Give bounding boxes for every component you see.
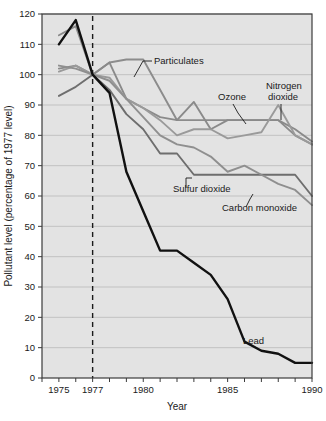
- x-tick-label-1990: 1990: [301, 384, 322, 395]
- y-tick-label-80: 80: [24, 130, 35, 141]
- y-axis: 0102030405060708090100110120: [19, 8, 42, 383]
- series-label-ozone: Ozone: [218, 91, 246, 102]
- series-label-sulfur-dioxide: Sulfur dioxide: [173, 183, 231, 194]
- x-tick-label-1985: 1985: [217, 384, 238, 395]
- series-label-nitrogen-dioxide-line2: dioxide: [268, 91, 298, 102]
- y-tick-label-20: 20: [24, 312, 35, 323]
- series-label-nitrogen-dioxide-line1: Nitrogen: [266, 80, 302, 91]
- y-tick-label-40: 40: [24, 251, 35, 262]
- pollutant-level-line-chart: 0102030405060708090100110120 19751977198…: [0, 0, 326, 421]
- series-label-lead: Lead: [243, 335, 264, 346]
- x-tick-label-1975: 1975: [48, 384, 69, 395]
- y-tick-label-110: 110: [20, 39, 35, 50]
- y-tick-label-0: 0: [30, 372, 35, 383]
- x-axis-title: Year: [167, 401, 188, 412]
- x-tick-label-1980: 1980: [133, 384, 154, 395]
- x-tick-label-1977: 1977: [82, 384, 103, 395]
- y-tick-label-90: 90: [24, 99, 35, 110]
- y-tick-label-60: 60: [24, 190, 35, 201]
- chart-figure: 0102030405060708090100110120 19751977198…: [0, 0, 326, 421]
- y-tick-label-30: 30: [24, 281, 35, 292]
- y-tick-label-120: 120: [19, 8, 35, 19]
- x-axis: 19751977198019851990: [42, 378, 323, 395]
- y-tick-label-70: 70: [24, 160, 35, 171]
- y-axis-title: Pollutant level (percentage of 1977 leve…: [3, 105, 14, 286]
- y-tick-label-10: 10: [24, 342, 35, 353]
- y-tick-label-100: 100: [19, 69, 35, 80]
- series-label-carbon-monoxide: Carbon monoxide: [222, 202, 297, 213]
- y-tick-label-50: 50: [24, 221, 35, 232]
- series-label-particulates: Particulates: [154, 55, 204, 66]
